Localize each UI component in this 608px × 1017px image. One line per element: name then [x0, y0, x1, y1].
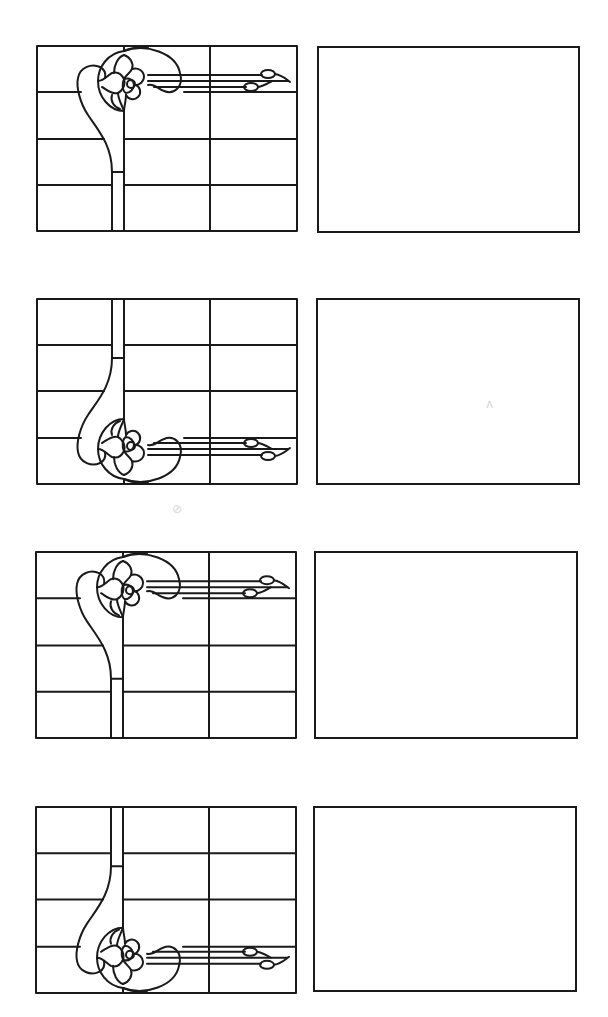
- stained-glass-flower-top-icon: [35, 551, 297, 739]
- stained-glass-flower-bottom-icon: [36, 298, 298, 485]
- design-panel-4: [35, 806, 297, 994]
- blank-frame-4: [313, 806, 577, 992]
- design-panel-2: [36, 298, 298, 485]
- blank-frame-3: [314, 551, 578, 739]
- blank-frame-2: [316, 298, 580, 485]
- design-panel-3: [35, 551, 297, 739]
- blank-frame-1: [317, 46, 580, 233]
- stained-glass-flower-bottom-icon: [35, 806, 297, 994]
- scan-mark: ⊘: [172, 503, 182, 515]
- design-panel-1: [36, 45, 298, 232]
- worksheet: ᴧ ⊘: [0, 0, 608, 1017]
- stained-glass-flower-top-icon: [36, 45, 298, 232]
